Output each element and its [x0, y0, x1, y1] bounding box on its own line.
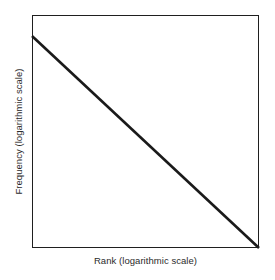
x-axis-title: Rank (logarithmic scale) [32, 256, 259, 267]
zipf-law-figure: Frequency (logarithmic scale) Rank (loga… [0, 0, 275, 280]
plot-svg [32, 15, 259, 248]
y-axis-title: Frequency (logarithmic scale) [14, 15, 28, 248]
plot-canvas [32, 15, 259, 248]
power-law-line [32, 36, 259, 248]
